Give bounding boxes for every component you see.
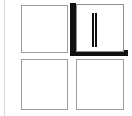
- left-edge-rule: [4, 0, 5, 116]
- tile-top-left[interactable]: [21, 5, 68, 53]
- tile-bottom-left[interactable]: [21, 59, 68, 110]
- tile-top-right[interactable]: [76, 4, 124, 52]
- screen-root: [0, 0, 132, 116]
- vertical-bar-icon[interactable]: [92, 13, 97, 47]
- tile-bottom-right[interactable]: [76, 59, 124, 110]
